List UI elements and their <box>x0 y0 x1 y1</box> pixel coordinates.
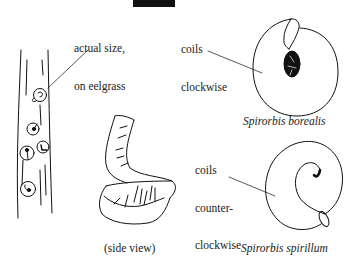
label-line: coils <box>195 164 241 177</box>
label-line: counter- <box>195 202 241 215</box>
label-line: coils <box>181 43 227 56</box>
label-clockwise: coils clockwise <box>181 18 227 118</box>
species-name-spirillum: Spirorbis spirillum <box>241 242 328 255</box>
eelgrass-tubeworms <box>20 89 49 197</box>
drawing <box>0 0 350 274</box>
species-name-borealis: Spirorbis borealis <box>243 115 326 128</box>
illustration-canvas: actual size, on eelgrass coils clockwise… <box>0 0 350 274</box>
label-actual-size: actual size, on eelgrass <box>74 17 125 117</box>
label-side-view: (side view) <box>104 242 155 255</box>
label-line: clockwise <box>195 239 241 252</box>
label-counter-clockwise: coils counter- clockwise <box>195 139 241 274</box>
label-line: on eelgrass <box>74 80 125 93</box>
label-line: clockwise <box>181 81 227 94</box>
spirorbis-borealis-shell <box>253 19 338 116</box>
side-view-tubeworm <box>99 115 175 224</box>
spirorbis-spirillum-shell <box>266 141 343 229</box>
label-line: actual size, <box>74 42 125 55</box>
